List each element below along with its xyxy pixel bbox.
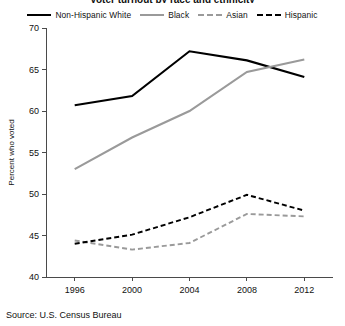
x-axis-tick-label: 2012	[294, 285, 314, 295]
data-series	[75, 51, 305, 249]
x-axis-tick-label: 1996	[65, 285, 85, 295]
y-axis-tick-label: 40	[29, 272, 39, 282]
series-line-asian	[75, 214, 305, 250]
y-axis-tick-label: 45	[29, 231, 39, 241]
plot-area: 4045505560657019962000200420082012Percen…	[0, 0, 345, 326]
source-note: Source: U.S. Census Bureau	[6, 310, 122, 320]
x-axis-tick-label: 2004	[179, 285, 199, 295]
x-axis-tick-label: 2000	[122, 285, 142, 295]
series-line-non-hispanic-white	[75, 51, 305, 105]
axis-labels: 4045505560657019962000200420082012Percen…	[7, 23, 314, 295]
voter-turnout-chart: Voter turnout by race and ethnicity Non-…	[0, 0, 345, 326]
x-axis-tick-label: 2008	[237, 285, 257, 295]
y-axis-tick-label: 70	[29, 23, 39, 33]
y-axis-tick-label: 55	[29, 148, 39, 158]
y-axis-tick-label: 50	[29, 189, 39, 199]
y-axis-tick-label: 60	[29, 106, 39, 116]
y-axis-title: Percent who voted	[7, 119, 16, 185]
series-line-black	[75, 60, 305, 170]
y-axis-tick-label: 65	[29, 65, 39, 75]
series-line-hispanic	[75, 195, 305, 244]
